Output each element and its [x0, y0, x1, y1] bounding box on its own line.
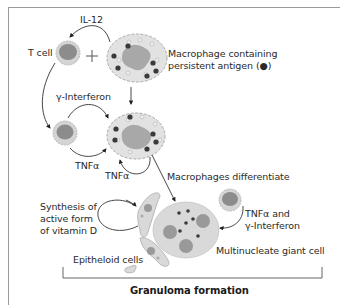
- tnf-and-label-line1: TNFα and: [245, 208, 290, 220]
- multinucleate-giant-cell-icon: [153, 202, 219, 258]
- t-cell-down-arrow: [42, 63, 55, 128]
- macrophage-label-line1: Macrophage containing: [168, 48, 277, 60]
- granuloma-diagram: [0, 0, 340, 305]
- activated-t-cell-icon: [53, 121, 77, 145]
- granuloma-bracket: [63, 267, 322, 278]
- vitamin-d-loop: [98, 200, 138, 230]
- giant-cell-label: Multinucleate giant cell: [216, 245, 325, 257]
- synthesis-label-line1: Synthesis of: [40, 201, 97, 213]
- t-cell-icon: [56, 41, 80, 65]
- il12-arrow: [70, 26, 110, 42]
- macrophage-with-antigen-icon: [107, 34, 167, 82]
- synthesis-label-line2: active form: [40, 213, 93, 225]
- tnf-alpha-label: TNFα: [75, 160, 99, 172]
- macrophage-label-line2: persistent antigen (●): [168, 60, 271, 72]
- gamma-interferon-label: γ-Interferon: [56, 91, 111, 103]
- activated-macrophage-icon: [107, 113, 165, 159]
- t-cell-label: T cell: [28, 47, 53, 59]
- tnf-and-label-line2: γ-Interferon: [245, 220, 300, 232]
- gamma-interferon-arrow: [68, 105, 108, 119]
- granuloma-formation-title: Granuloma formation: [130, 285, 249, 297]
- tnf-alpha-loop-label: TNFα: [105, 170, 129, 182]
- plus-icon: [86, 50, 98, 62]
- il12-label: IL-12: [80, 14, 103, 26]
- synthesis-label-line3: of vitamin D: [40, 225, 97, 237]
- tnf-arrow: [70, 148, 106, 156]
- macrophages-differentiate-label: Macrophages differentiate: [167, 171, 290, 183]
- giant-cell-t-cell-icon: [219, 189, 241, 211]
- epitheloid-cells-label: Epitheloid cells: [73, 254, 143, 266]
